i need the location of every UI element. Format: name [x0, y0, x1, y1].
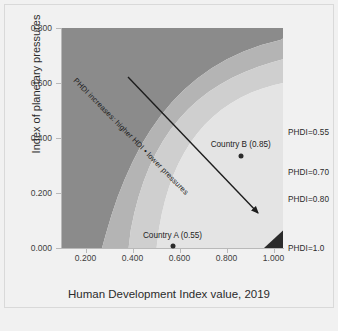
y-tick-0000 [56, 248, 62, 249]
point-country-a[interactable] [170, 244, 175, 249]
x-tick-label-0200: 0.200 [75, 253, 96, 263]
x-tick-label-0400: 0.400 [122, 253, 143, 263]
y-tick-label-0600: 0.600 [0, 78, 52, 88]
x-tick-label-0800: 0.800 [216, 253, 237, 263]
y-tick-0200 [56, 193, 62, 194]
plot-area [62, 28, 283, 248]
phdi-label-080: PHDI=0.80 [288, 195, 329, 204]
phdi-label-055: PHDI=0.55 [288, 128, 329, 137]
y-tick-label-0800: 0.800 [0, 23, 52, 33]
phdi-bands [62, 28, 283, 248]
point-label-country-a: Country A (0.55) [143, 231, 202, 240]
x-tick-label-0600: 0.600 [169, 253, 190, 263]
x-axis-title: Human Development Index value, 2019 [0, 288, 338, 300]
phdi-label-100: PHDI=1.0 [288, 244, 325, 253]
y-tick-label-0000: 0.000 [0, 243, 52, 253]
phdi-label-070: PHDI=0.70 [288, 168, 329, 177]
x-tick-label-1000: 1.000 [263, 253, 284, 263]
y-axis-title: Index of planetary pressures [30, 4, 42, 164]
y-tick-label-0400: 0.400 [0, 133, 52, 143]
y-tick-0800 [56, 28, 62, 29]
y-tick-0400 [56, 138, 62, 139]
point-label-country-b: Country B (0.85) [211, 140, 271, 149]
y-tick-label-0200: 0.200 [0, 188, 52, 198]
chart-figure: 0.800 0.600 0.400 0.200 0.000 0.200 0.40… [0, 0, 338, 331]
point-country-b[interactable] [238, 154, 243, 159]
y-tick-0600 [56, 83, 62, 84]
